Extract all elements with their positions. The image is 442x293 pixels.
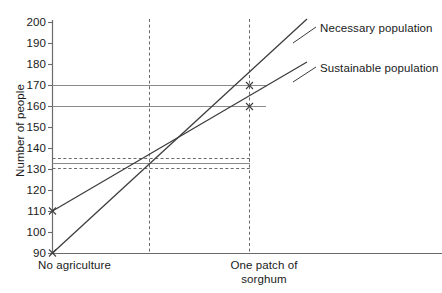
y-tick-marks	[48, 23, 53, 254]
x-category-label-line2: sorghum	[214, 273, 314, 287]
x-category-label-line1: One patch of	[214, 259, 314, 273]
y-tick-label-190: 190	[18, 38, 46, 50]
y-tick-label-110: 110	[18, 206, 46, 218]
leader-line-sustainable	[293, 67, 316, 82]
y-tick-label-150: 150	[18, 122, 46, 134]
y-tick-label-130: 130	[18, 164, 46, 176]
y-tick-label-90: 90	[18, 248, 46, 260]
y-tick-label-180: 180	[18, 59, 46, 71]
data-point-markers	[49, 82, 253, 257]
chart-plot-area	[0, 0, 442, 293]
series-label-necessary-population: Necessary population	[320, 22, 433, 34]
y-tick-label-200: 200	[18, 17, 46, 29]
x-category-label-no-agriculture: No agriculture	[38, 259, 111, 273]
chart-container: Number of people 200 190 180 170 160 150…	[0, 0, 442, 293]
y-tick-label-160: 160	[18, 101, 46, 113]
y-tick-label-100: 100	[18, 227, 46, 239]
series-label-sustainable-population: Sustainable population	[320, 62, 439, 74]
y-tick-label-140: 140	[18, 143, 46, 155]
series-line-sustainable-population	[53, 62, 308, 211]
y-tick-label-170: 170	[18, 80, 46, 92]
y-tick-label-120: 120	[18, 185, 46, 197]
x-category-label-one-patch-of-sorghum: One patch of sorghum	[214, 259, 314, 286]
